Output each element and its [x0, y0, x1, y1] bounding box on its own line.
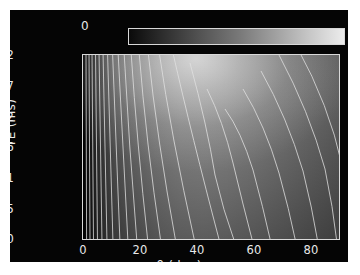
- x-axis-label: θ (deg): [10, 259, 348, 262]
- x-tick-label-0: 0: [79, 243, 87, 257]
- colorbar-gradient: [128, 28, 345, 45]
- heatmap-svg: [83, 55, 339, 239]
- colorbar-tick-label: 0: [81, 19, 89, 33]
- y-tick-label-33-2: 33.2: [10, 48, 14, 62]
- x-tick-label-80: 80: [303, 243, 318, 257]
- x-tick-label-60: 60: [246, 243, 261, 257]
- x-tick-label-20: 20: [132, 243, 147, 257]
- plot-area: [82, 54, 340, 240]
- y-axis-label: TE (ms): [10, 99, 18, 147]
- y-tick-label-27-7: 27.7: [10, 79, 14, 93]
- x-tick-label-40: 40: [189, 243, 204, 257]
- y-tick-label-5-5: 5.5: [10, 202, 14, 216]
- y-tick-label-11-1: 11.1: [10, 171, 14, 185]
- figure-canvas: 0 33.2 27.7 22.2 16.6 11.1 5.5 0.0 0 20 …: [10, 10, 348, 262]
- y-tick-label-0-0: 0.0: [10, 232, 14, 246]
- colorbar: 0: [128, 28, 345, 45]
